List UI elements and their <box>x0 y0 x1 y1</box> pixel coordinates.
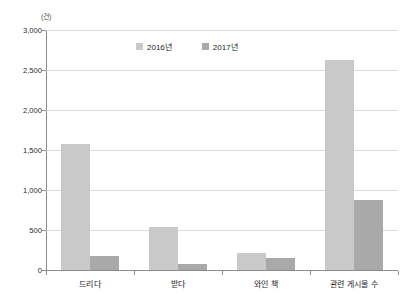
legend-swatch-icon <box>202 43 209 50</box>
bar-2017 <box>266 258 295 270</box>
y-axis-tick-label: 2,000 <box>2 106 42 115</box>
y-axis-tick-label: 1,500 <box>2 146 42 155</box>
y-axis-tick-labels: 3,0002,5002,0001,5001,0005000 <box>0 0 42 302</box>
y-axis-tick-mark <box>42 110 46 111</box>
bar-2016 <box>237 253 266 270</box>
y-axis-tick-label: 0 <box>2 266 42 275</box>
bar-2017 <box>90 256 119 270</box>
y-axis-tick-mark <box>42 30 46 31</box>
y-axis-tick-mark <box>42 70 46 71</box>
legend-label: 2016년 <box>147 41 172 52</box>
legend-label: 2017년 <box>213 41 238 52</box>
y-axis-tick-mark <box>42 150 46 151</box>
bar-chart: (건) 3,0002,5002,0001,5001,0005000 2016년2… <box>0 0 406 302</box>
y-axis-tick-label: 2,500 <box>2 66 42 75</box>
legend-item: 2017년 <box>202 41 238 52</box>
x-axis-tick-mark <box>134 271 135 275</box>
x-axis-tick-mark <box>46 271 47 275</box>
legend-item: 2016년 <box>136 41 172 52</box>
chart-legend: 2016년2017년 <box>136 41 238 52</box>
x-axis-tick-mark <box>398 271 399 275</box>
x-axis-category-label: 드리다 <box>79 278 100 289</box>
y-axis-unit-label: (건) <box>41 11 51 21</box>
bar-2017 <box>354 200 383 270</box>
x-axis-category-label: 와인 책 <box>254 278 278 289</box>
bar-2016 <box>325 60 354 270</box>
y-axis-tick-label: 3,000 <box>2 26 42 35</box>
bar-2016 <box>61 144 90 270</box>
x-axis-tick-mark <box>310 271 311 275</box>
y-axis-tick-label: 1,000 <box>2 186 42 195</box>
legend-swatch-icon <box>136 43 143 50</box>
gridline <box>46 30 398 31</box>
x-axis-category-label: 관련 게시물 수 <box>330 278 377 289</box>
x-axis-tick-mark <box>222 271 223 275</box>
bar-2017 <box>178 264 207 270</box>
x-axis-category-label: 받다 <box>171 278 185 289</box>
y-axis-tick-mark <box>42 190 46 191</box>
y-axis-tick-label: 500 <box>2 226 42 235</box>
bar-2016 <box>149 227 178 270</box>
y-axis-tick-mark <box>42 230 46 231</box>
